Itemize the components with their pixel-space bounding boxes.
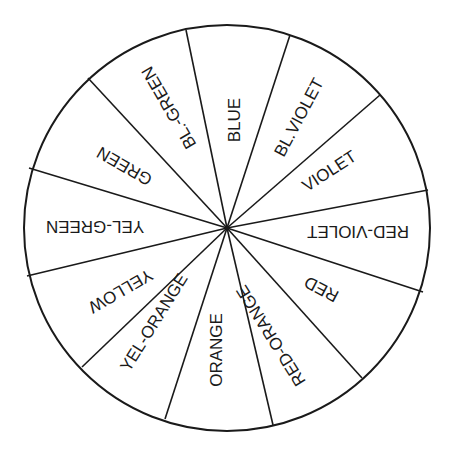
segment-label-red-violet: RED-VIOLET (307, 222, 409, 241)
segment-label-blue: BLUE (225, 98, 244, 142)
center-point (225, 226, 229, 230)
segment-label-yel-green: YEL-GREEN (46, 217, 144, 236)
color-wheel-diagram: BLUEBL.VIOLETVIOLETRED-VIOLETREDRED-ORAN… (0, 0, 450, 449)
segment-label-orange: ORANGE (207, 313, 226, 387)
